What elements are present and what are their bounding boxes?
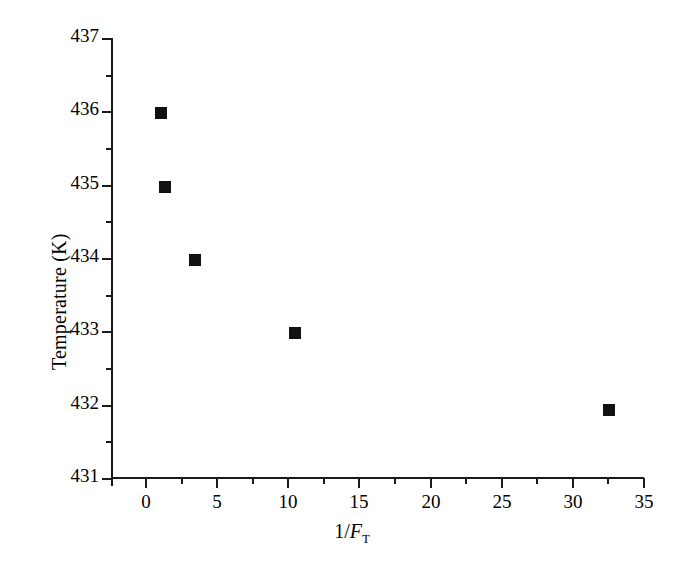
x-axis-major-tick xyxy=(145,478,147,488)
x-axis-minor-tick xyxy=(607,478,609,484)
x-axis-major-tick xyxy=(216,478,218,488)
x-axis-label-prefix: 1/ xyxy=(334,520,350,542)
x-axis-major-tick xyxy=(501,478,503,488)
y-axis-tick-label: 436 xyxy=(49,98,99,120)
x-axis-origin-stub xyxy=(111,478,113,486)
x-axis-line xyxy=(111,477,644,479)
y-axis-tick-label: 435 xyxy=(49,172,99,194)
x-axis-label-symbol: F xyxy=(350,520,362,542)
x-axis-minor-tick xyxy=(252,478,254,484)
x-axis-major-tick xyxy=(358,478,360,488)
x-axis-label: 1/FT xyxy=(334,520,370,547)
x-axis-tick-label: 25 xyxy=(472,491,532,513)
y-axis-major-tick xyxy=(102,185,112,187)
x-axis-tick-label: 5 xyxy=(187,491,247,513)
x-axis-minor-tick xyxy=(323,478,325,484)
y-axis-major-tick xyxy=(102,111,112,113)
x-axis-tick-label: 20 xyxy=(401,491,461,513)
x-axis-major-tick xyxy=(643,478,645,488)
y-axis-major-tick xyxy=(102,405,112,407)
y-axis-tick-label: 434 xyxy=(49,245,99,267)
x-axis-minor-tick xyxy=(465,478,467,484)
x-axis-minor-tick xyxy=(181,478,183,484)
data-point-marker xyxy=(157,179,173,195)
x-axis-tick-label: 35 xyxy=(614,491,674,513)
x-axis-minor-tick xyxy=(394,478,396,484)
y-axis-tick-label: 431 xyxy=(49,465,99,487)
data-point-marker xyxy=(287,325,303,341)
x-axis-tick-label: 10 xyxy=(258,491,318,513)
y-axis-minor-tick xyxy=(106,441,112,443)
x-axis-major-tick xyxy=(430,478,432,488)
scatter-plot-figure: Temperature (K) 1/FT 4314324334344354364… xyxy=(0,0,680,572)
data-point-marker xyxy=(153,105,169,121)
y-axis-minor-tick xyxy=(106,148,112,150)
data-point-marker xyxy=(187,252,203,268)
y-axis-tick-label: 437 xyxy=(49,25,99,47)
x-axis-tick-label: 30 xyxy=(543,491,603,513)
x-axis-major-tick xyxy=(572,478,574,488)
y-axis-minor-tick xyxy=(106,368,112,370)
y-axis-major-tick xyxy=(102,258,112,260)
x-axis-tick-label: 0 xyxy=(116,491,176,513)
x-axis-label-subscript: T xyxy=(362,531,370,546)
y-axis-tick-label: 433 xyxy=(49,318,99,340)
x-axis-major-tick xyxy=(287,478,289,488)
y-axis-major-tick xyxy=(102,331,112,333)
y-axis-minor-tick xyxy=(106,75,112,77)
x-axis-tick-label: 15 xyxy=(329,491,389,513)
x-axis-minor-tick xyxy=(536,478,538,484)
y-axis-major-tick xyxy=(102,38,112,40)
y-axis-tick-label: 432 xyxy=(49,392,99,414)
data-point-marker xyxy=(601,402,617,418)
y-axis-minor-tick xyxy=(106,295,112,297)
y-axis-minor-tick xyxy=(106,221,112,223)
